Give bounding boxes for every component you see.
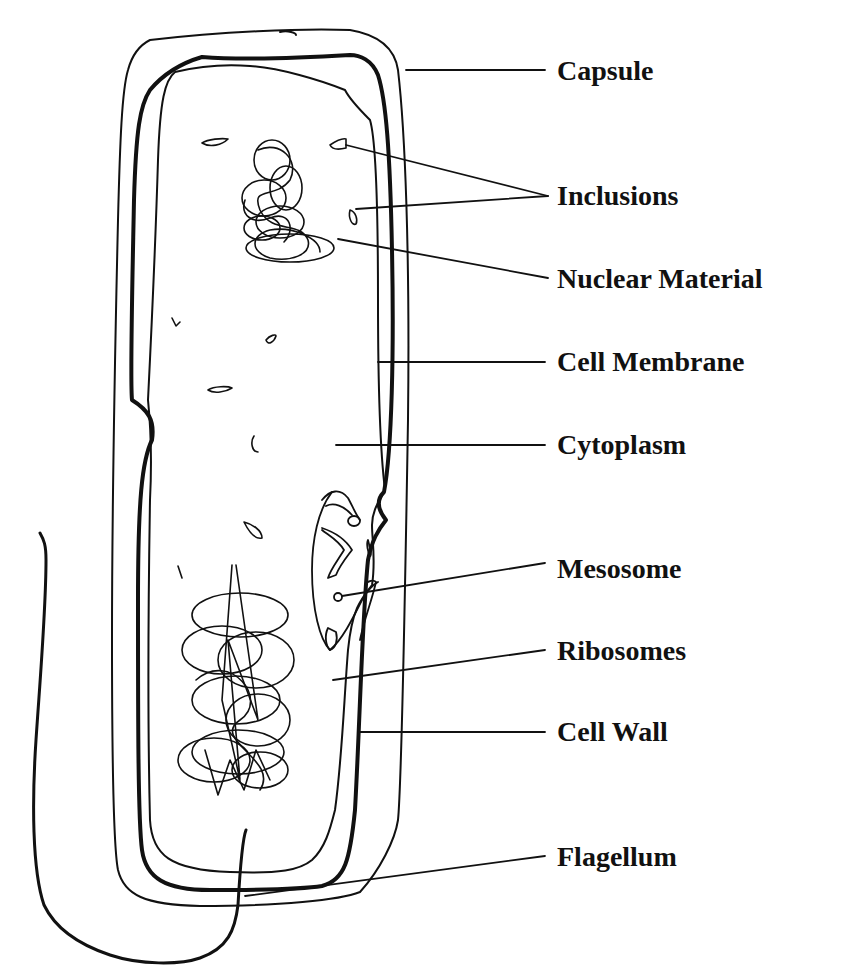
label-flagellum: Flagellum — [557, 843, 677, 871]
label-cell-membrane: Cell Membrane — [557, 348, 744, 376]
label-capsule: Capsule — [557, 57, 653, 85]
label-nuclear-material: Nuclear Material — [557, 265, 763, 293]
label-cell-wall: Cell Wall — [557, 718, 668, 746]
bacterial-cell-diagram — [0, 0, 858, 979]
label-inclusions: Inclusions — [557, 182, 678, 210]
capsule-outline — [112, 29, 408, 906]
leader-lines — [245, 70, 548, 896]
nuclear-material-lower — [178, 565, 294, 795]
cell-membrane-outline — [148, 65, 385, 872]
nuclear-material-upper — [242, 140, 334, 262]
inclusions — [172, 139, 357, 578]
label-cytoplasm: Cytoplasm — [557, 431, 686, 459]
label-ribosomes: Ribosomes — [557, 637, 686, 665]
label-mesosome: Mesosome — [557, 555, 681, 583]
